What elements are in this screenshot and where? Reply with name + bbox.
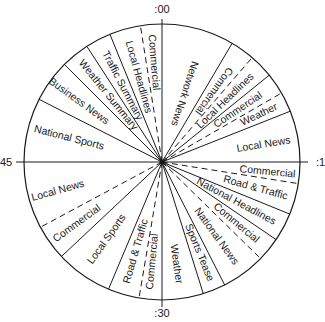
minute-axis-label: :30 xyxy=(154,307,169,319)
segment-label: Local News xyxy=(236,133,292,154)
minute-axis-label: :1 xyxy=(316,156,325,168)
segment-label: Commercial xyxy=(50,201,102,244)
segment-label: Commercial xyxy=(239,162,296,179)
segment-label: Weather xyxy=(169,243,186,284)
radio-clock-diagram: Network NewsCommercialLocal HeadlinesCom… xyxy=(0,0,325,322)
segment-label: Commercial xyxy=(143,233,160,290)
minute-axis-label: 45 xyxy=(0,156,12,168)
segment-label: Local News xyxy=(30,177,86,203)
minute-axis-label: :00 xyxy=(154,3,169,15)
center-hub xyxy=(160,160,165,165)
segment-label: National Sports xyxy=(33,122,106,151)
